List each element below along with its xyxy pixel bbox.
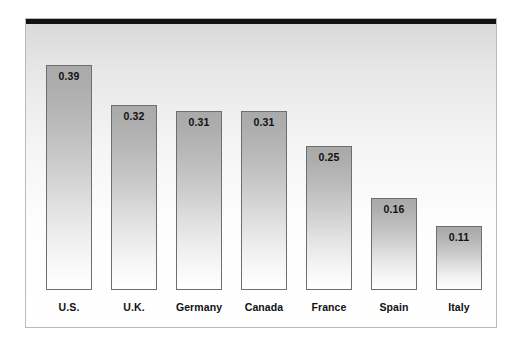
category-label: France <box>296 301 362 313</box>
bar[interactable]: 0.32 <box>111 105 157 290</box>
category-label: Germany <box>166 301 232 313</box>
category-label: U.K. <box>101 301 167 313</box>
bar[interactable]: 0.11 <box>436 226 482 290</box>
bar-group: 0.31Germany <box>176 22 222 327</box>
bar-value-label: 0.11 <box>437 231 481 243</box>
bar[interactable]: 0.31 <box>241 111 287 290</box>
bar-group: 0.11Italy <box>436 22 482 327</box>
category-label: Italy <box>426 301 492 313</box>
bar-group: 0.32U.K. <box>111 22 157 327</box>
category-label: U.S. <box>36 301 102 313</box>
bar-group: 0.31Canada <box>241 22 287 327</box>
category-label: Spain <box>361 301 427 313</box>
bar-chart-figure: 0.39U.S.0.32U.K.0.31Germany0.31Canada0.2… <box>25 18 497 328</box>
bar[interactable]: 0.31 <box>176 111 222 290</box>
bar-value-label: 0.31 <box>242 116 286 128</box>
bar[interactable]: 0.25 <box>306 146 352 290</box>
bar-value-label: 0.32 <box>112 110 156 122</box>
bar-group: 0.25France <box>306 22 352 327</box>
bar[interactable]: 0.39 <box>46 65 92 290</box>
bar-value-label: 0.31 <box>177 116 221 128</box>
bar[interactable]: 0.16 <box>371 198 417 290</box>
category-label: Canada <box>231 301 297 313</box>
plot-area: 0.39U.S.0.32U.K.0.31Germany0.31Canada0.2… <box>26 24 496 327</box>
bar-value-label: 0.25 <box>307 151 351 163</box>
bar-group: 0.16Spain <box>371 22 417 327</box>
bar-value-label: 0.16 <box>372 203 416 215</box>
bar-group: 0.39U.S. <box>46 22 92 327</box>
bar-value-label: 0.39 <box>47 70 91 82</box>
